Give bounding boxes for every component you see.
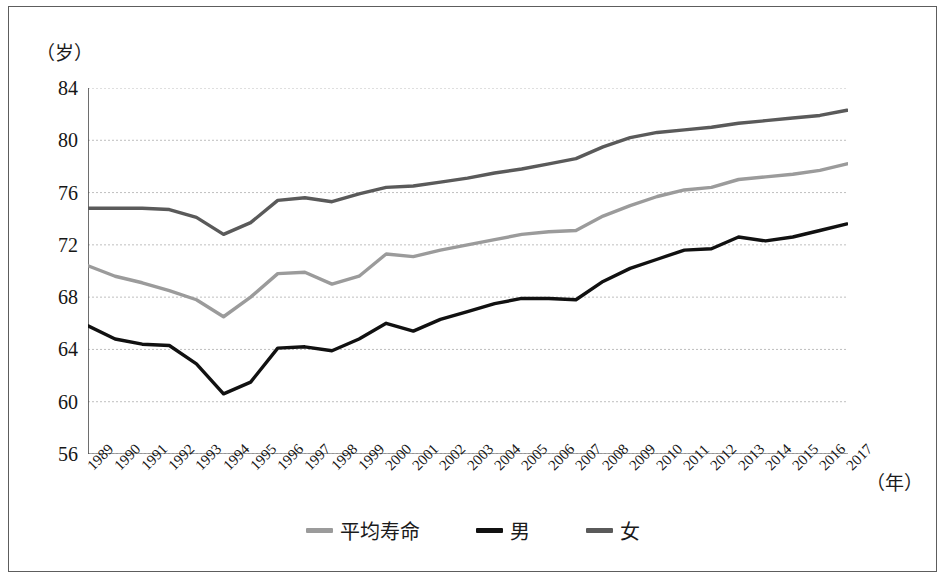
legend-item-male[interactable]: 男: [476, 516, 530, 545]
legend-swatch-female: [586, 528, 613, 533]
y-axis-tick-label: 60: [36, 390, 78, 413]
y-axis-tick-label: 80: [36, 129, 78, 152]
legend-swatch-male: [476, 528, 503, 533]
y-axis-tick-label: 68: [36, 286, 78, 309]
legend-label-average: 平均寿命: [340, 516, 420, 545]
chart-legend: 平均寿命男女: [0, 516, 945, 545]
chart-canvas: [88, 88, 848, 454]
y-axis-tick-label: 72: [36, 233, 78, 256]
x-axis-unit-label: （年）: [866, 468, 923, 495]
plot-area: [88, 88, 848, 454]
legend-item-female[interactable]: 女: [586, 516, 640, 545]
chart-figure: （岁） （年） 平均寿命男女 5660646872768084198919901…: [0, 0, 945, 578]
legend-swatch-average: [306, 528, 333, 533]
legend-label-female: 女: [620, 516, 640, 545]
legend-item-average[interactable]: 平均寿命: [306, 516, 420, 545]
y-axis-tick-label: 56: [36, 443, 78, 466]
y-axis-tick-label: 76: [36, 181, 78, 204]
legend-label-male: 男: [510, 516, 530, 545]
series-line-female: [88, 110, 847, 234]
y-axis-tick-label: 64: [36, 338, 78, 361]
series-line-male: [88, 224, 847, 394]
y-axis-unit-label: （岁）: [36, 38, 93, 65]
y-axis-tick-label: 84: [36, 77, 78, 100]
